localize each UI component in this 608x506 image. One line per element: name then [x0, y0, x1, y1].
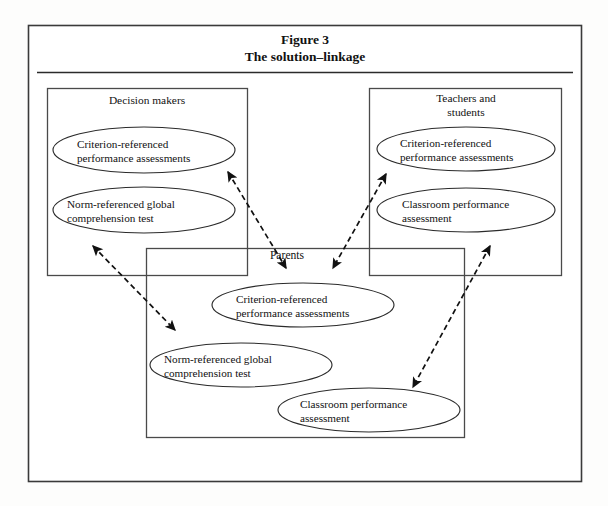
node-label-line1: Criterion-referenced — [236, 293, 328, 305]
node-label-line2: comprehension test — [164, 367, 252, 379]
group-label-teachers-line2: students — [447, 106, 485, 118]
node-label-line1: Norm-referenced global — [164, 353, 272, 365]
node-label-line1: Criterion-referenced — [400, 137, 492, 149]
node-label-line2: performance assessments — [400, 151, 513, 163]
figure-title-line2: The solution–linkage — [245, 49, 365, 64]
node-label-line1: Classroom performance — [402, 198, 509, 210]
figure-page: Figure 3 The solution–linkage Decision m… — [0, 0, 608, 506]
node-label-line1: Criterion-referenced — [77, 138, 169, 150]
group-label-teachers-line1: Teachers and — [436, 92, 496, 104]
node-label-line2: performance assessments — [236, 307, 349, 319]
solution-linkage-diagram: Figure 3 The solution–linkage Decision m… — [0, 0, 608, 506]
figure-title-line1: Figure 3 — [281, 32, 329, 47]
node-label-line2: performance assessments — [77, 152, 190, 164]
node-label-line2: comprehension test — [67, 212, 155, 224]
node-label-line1: Classroom performance — [300, 398, 407, 410]
group-label-decision-makers: Decision makers — [109, 94, 186, 106]
node-label-line2: assessment — [402, 212, 453, 224]
node-label-line1: Norm-referenced global — [67, 198, 175, 210]
node-label-line2: assessment — [300, 412, 351, 424]
